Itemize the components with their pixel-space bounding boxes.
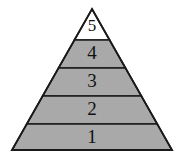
- tier-5-label: 5: [88, 16, 97, 35]
- tier-1-label: 1: [87, 126, 97, 147]
- tier-2-label: 2: [87, 98, 97, 119]
- pyramid-tier-3: 3: [43, 68, 142, 96]
- pyramid-tier-4: 4: [59, 40, 126, 68]
- pyramid-tier-2: 2: [27, 96, 158, 124]
- tier-3-label: 3: [87, 70, 97, 91]
- pyramid-diagram: 5 4 3 2 1: [0, 0, 184, 163]
- pyramid-tier-1: 1: [12, 124, 172, 150]
- pyramid-tier-5: 5: [74, 9, 109, 40]
- pyramid-figure: 5 4 3 2 1: [0, 0, 184, 163]
- tier-4-label: 4: [87, 42, 97, 63]
